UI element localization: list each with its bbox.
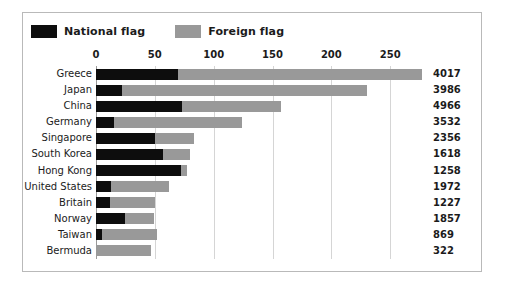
bar-segment — [96, 117, 114, 128]
bar-row — [96, 243, 429, 259]
bar-value-label: 1972 — [433, 179, 461, 195]
x-tick-label: 50 — [148, 49, 162, 60]
bar-row — [96, 114, 429, 130]
bar-segment — [96, 213, 125, 224]
x-tick-label: 100 — [203, 49, 224, 60]
bar-track — [96, 149, 429, 160]
bar-segment — [163, 149, 190, 160]
bar-row — [96, 163, 429, 179]
bar-rows — [96, 66, 429, 259]
bar-value-label: 869 — [433, 227, 454, 243]
bar-track — [96, 181, 429, 192]
category-label: China — [63, 98, 92, 114]
bar-value-label: 322 — [433, 243, 454, 259]
legend-swatch-icon — [175, 25, 201, 38]
bar-row — [96, 66, 429, 82]
category-label: Bermuda — [46, 243, 92, 259]
bar-track — [96, 101, 429, 112]
category-label: Singapore — [42, 130, 92, 146]
chart-legend: National flagForeign flag — [31, 21, 306, 41]
legend-label: National flag — [64, 25, 145, 38]
category-label: Germany — [46, 114, 92, 130]
category-label: Britain — [59, 195, 92, 211]
category-label: United States — [24, 179, 92, 195]
x-axis-tick-labels: 050100150200250 — [23, 49, 481, 63]
bar-segment — [96, 149, 163, 160]
bar-segment — [96, 133, 155, 144]
bar-value-labels: 4017398649663532235616181258197212271857… — [433, 66, 479, 259]
x-tick-label: 150 — [262, 49, 283, 60]
bar-value-label: 1227 — [433, 195, 461, 211]
bar-segment — [96, 101, 182, 112]
bar-track — [96, 165, 429, 176]
bar-value-label: 3986 — [433, 82, 461, 98]
bar-segment — [182, 101, 281, 112]
bar-value-label: 2356 — [433, 130, 461, 146]
x-tick-label: 250 — [380, 49, 401, 60]
bar-track — [96, 229, 429, 240]
bar-value-label: 1258 — [433, 163, 461, 179]
bar-segment — [178, 69, 422, 80]
bar-segment — [96, 197, 110, 208]
bar-row — [96, 146, 429, 162]
category-label: Norway — [54, 211, 92, 227]
bar-track — [96, 117, 429, 128]
bar-segment — [181, 165, 187, 176]
category-label: South Korea — [31, 146, 92, 162]
legend-entry: Foreign flag — [175, 25, 284, 38]
category-label: Taiwan — [58, 227, 92, 243]
legend-swatch-icon — [31, 25, 57, 38]
bar-track — [96, 133, 429, 144]
bar-segment — [155, 133, 194, 144]
chart-frame: National flagForeign flag 05010015020025… — [22, 12, 482, 272]
bar-track — [96, 69, 429, 80]
bar-row — [96, 130, 429, 146]
bar-track — [96, 213, 429, 224]
bar-track — [96, 245, 429, 256]
bar-row — [96, 227, 429, 243]
legend-label: Foreign flag — [208, 25, 284, 38]
y-axis-category-labels: GreeceJapanChinaGermanySingaporeSouth Ko… — [23, 66, 92, 259]
bar-value-label: 1618 — [433, 146, 461, 162]
bar-value-label: 4017 — [433, 66, 461, 82]
x-tick-label: 0 — [93, 49, 100, 60]
bar-segment — [122, 85, 367, 96]
x-tick-label: 200 — [321, 49, 342, 60]
bar-segment — [110, 197, 155, 208]
bar-track — [96, 85, 429, 96]
legend-entry: National flag — [31, 25, 145, 38]
category-label: Hong Kong — [38, 163, 92, 179]
bar-value-label: 1857 — [433, 211, 461, 227]
bar-segment — [125, 213, 153, 224]
plot-area — [96, 66, 429, 259]
bar-track — [96, 197, 429, 208]
bar-segment — [96, 245, 151, 256]
bar-row — [96, 82, 429, 98]
bar-row — [96, 179, 429, 195]
bar-segment — [114, 117, 242, 128]
category-label: Japan — [64, 82, 92, 98]
bar-segment — [111, 181, 169, 192]
bar-row — [96, 98, 429, 114]
bar-segment — [96, 165, 181, 176]
bar-row — [96, 195, 429, 211]
bar-segment — [96, 69, 178, 80]
bar-value-label: 3532 — [433, 114, 461, 130]
category-label: Greece — [56, 66, 92, 82]
bar-value-label: 4966 — [433, 98, 461, 114]
bar-segment — [96, 181, 111, 192]
bar-row — [96, 211, 429, 227]
bar-segment — [102, 229, 157, 240]
bar-segment — [96, 85, 122, 96]
